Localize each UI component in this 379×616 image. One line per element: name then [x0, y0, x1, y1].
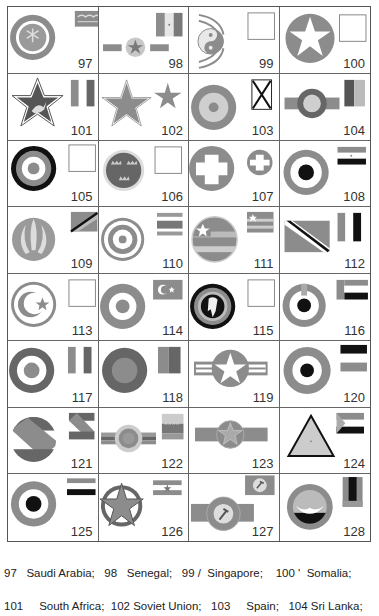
cell-number: 117: [72, 390, 93, 405]
cell-113: 113: [8, 274, 99, 341]
cell-number: 124: [343, 456, 365, 471]
cell-number: 100: [343, 56, 365, 71]
cell-121: 121: [8, 408, 99, 475]
cell-number: 128: [343, 524, 365, 539]
cell-number: 101: [71, 123, 93, 138]
cell-number: 103: [252, 123, 274, 138]
cell-99: 99: [189, 7, 280, 74]
cell-108: 108: [280, 141, 371, 208]
cell-number: 112: [344, 256, 365, 271]
cell-122: 122: [99, 408, 190, 475]
cell-115: 115: [189, 274, 280, 341]
cell-100: 100: [280, 7, 371, 74]
cell-126: 126: [99, 474, 190, 541]
cell-number: 106: [161, 189, 183, 204]
cell-123: 123: [189, 408, 280, 475]
cell-102: 102: [99, 74, 190, 141]
cell-number: 113: [72, 323, 93, 338]
cell-118: 118: [99, 341, 190, 408]
cell-103: 103: [189, 74, 280, 141]
caption: 97 Saudi Arabia; 98 Senegal; 99 / Singap…: [4, 546, 379, 616]
cell-number: 122: [161, 456, 183, 471]
cell-116: 116: [280, 274, 371, 341]
cell-number: 115: [253, 323, 274, 338]
cell-109: 109: [8, 207, 99, 274]
cell-number: 121: [71, 456, 93, 471]
cell-106: 106: [99, 141, 190, 208]
cell-105: 105: [8, 141, 99, 208]
cell-number: 109: [71, 256, 93, 271]
cell-112: 112: [280, 207, 371, 274]
cell-107: 107: [189, 141, 280, 208]
cell-number: 114: [162, 323, 183, 338]
cell-128: 128: [280, 474, 371, 541]
cell-number: 107: [252, 189, 274, 204]
caption-line-2: 101 South Africa; 102 Soviet Union; 103 …: [4, 601, 379, 612]
cell-98: 98: [99, 7, 190, 74]
cell-number: 120: [343, 390, 365, 405]
caption-line-1: 97 Saudi Arabia; 98 Senegal; 99 / Singap…: [4, 568, 379, 579]
cell-124: 124: [280, 408, 371, 475]
cell-97: 97: [8, 7, 99, 74]
cell-117: 117: [8, 341, 99, 408]
cell-114: 114: [99, 274, 190, 341]
cell-125: 125: [8, 474, 99, 541]
cell-number: 118: [162, 390, 183, 405]
cell-number: 99: [259, 56, 273, 71]
cell-number: 116: [344, 323, 365, 338]
cell-number: 105: [71, 189, 93, 204]
cell-number: 97: [78, 56, 92, 71]
cell-104: 104: [280, 74, 371, 141]
roundel-grid: 97 98 99: [7, 6, 371, 542]
cell-number: 104: [343, 123, 365, 138]
cell-127: 127: [189, 474, 280, 541]
cell-number: 126: [161, 524, 183, 539]
cell-119: 119: [189, 341, 280, 408]
cell-number: 108: [343, 189, 365, 204]
cell-110: 110: [99, 207, 190, 274]
cell-number: 123: [252, 456, 274, 471]
cell-number: 98: [169, 56, 183, 71]
cell-number: 102: [161, 123, 183, 138]
cell-number: 119: [253, 390, 274, 405]
cell-number: 110: [162, 256, 183, 271]
cell-number: 111: [254, 256, 274, 271]
cell-111: 111: [189, 207, 280, 274]
cell-number: 125: [71, 524, 93, 539]
cell-120: 120: [280, 341, 371, 408]
cell-101: 101: [8, 74, 99, 141]
cell-number: 127: [252, 524, 274, 539]
